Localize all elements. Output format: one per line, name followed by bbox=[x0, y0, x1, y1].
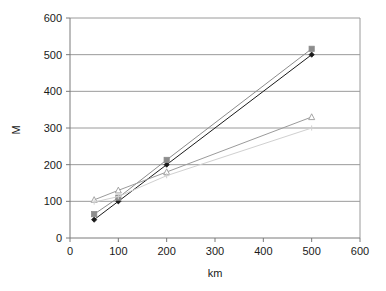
x-tick-label: 600 bbox=[351, 245, 369, 257]
x-tick-label: 0 bbox=[67, 245, 73, 257]
y-tick-label: 200 bbox=[44, 159, 62, 171]
y-tick-label: 100 bbox=[44, 195, 62, 207]
y-tick-label: 400 bbox=[44, 85, 62, 97]
x-tick-label: 100 bbox=[109, 245, 127, 257]
x-tick-label: 200 bbox=[157, 245, 175, 257]
y-tick-label: 600 bbox=[44, 12, 62, 24]
data-point-marker bbox=[309, 46, 314, 51]
data-point-marker bbox=[92, 212, 97, 217]
y-tick-label: 300 bbox=[44, 122, 62, 134]
x-tick-label: 300 bbox=[206, 245, 224, 257]
x-tick-label: 400 bbox=[254, 245, 272, 257]
y-axis-ticks bbox=[66, 18, 70, 238]
x-tick-label: 500 bbox=[302, 245, 320, 257]
chart-page: 0100200300400500600 0100200300400500600 … bbox=[0, 0, 386, 291]
x-axis-ticks bbox=[70, 238, 360, 242]
data-point-marker bbox=[164, 157, 169, 162]
y-tick-label: 0 bbox=[56, 232, 62, 244]
y-axis-title: M bbox=[10, 125, 22, 134]
x-axis-tick-labels: 0100200300400500600 bbox=[67, 245, 369, 257]
line-chart: 0100200300400500600 0100200300400500600 … bbox=[0, 0, 386, 291]
y-tick-label: 500 bbox=[44, 49, 62, 61]
x-axis-title: km bbox=[208, 267, 223, 279]
y-axis-tick-labels: 0100200300400500600 bbox=[44, 12, 62, 244]
